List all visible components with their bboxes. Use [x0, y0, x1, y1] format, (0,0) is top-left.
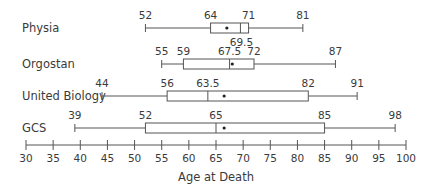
mean-dot — [223, 126, 226, 129]
box-rows: Physia5264718169.5Orgostan555967.57287Un… — [22, 9, 402, 135]
value-label: 52 — [139, 9, 152, 21]
value-label: 56 — [160, 77, 174, 89]
tick-label: 90 — [345, 152, 358, 164]
value-label: 39 — [68, 109, 81, 121]
value-label: 63.5 — [196, 77, 219, 89]
tick-label: 85 — [318, 152, 331, 164]
iqr-box — [211, 23, 249, 33]
box-row-physia: Physia5264718169.5 — [22, 9, 310, 48]
iqr-box — [145, 123, 324, 133]
tick-label: 60 — [182, 152, 195, 164]
boxplot-chart: Physia5264718169.5Orgostan555967.57287Un… — [0, 0, 439, 192]
tick-label: 45 — [101, 152, 114, 164]
series-label: United Biology — [22, 89, 106, 103]
box-row-orgostan: Orgostan555967.57287 — [22, 45, 342, 71]
tick-label: 30 — [19, 152, 32, 164]
value-label: 44 — [95, 77, 109, 89]
x-axis: 3035404550556065707580859095100 — [19, 140, 416, 164]
tick-label: 70 — [236, 152, 249, 164]
box-row-united-biology: United Biology445663.58291 — [22, 77, 364, 103]
box-row-gcs: GCS3952658598 — [22, 109, 402, 135]
tick-label: 55 — [155, 152, 168, 164]
iqr-box — [167, 91, 308, 101]
tick-label: 65 — [209, 152, 222, 164]
value-label: 98 — [388, 109, 401, 121]
mean-dot — [231, 62, 234, 65]
series-label: GCS — [22, 121, 46, 135]
value-label: 87 — [329, 45, 342, 57]
tick-label: 100 — [396, 152, 416, 164]
value-label: 91 — [350, 77, 363, 89]
tick-label: 35 — [46, 152, 59, 164]
tick-label: 75 — [264, 152, 277, 164]
value-label: 85 — [318, 109, 331, 121]
x-axis-label: Age at Death — [178, 170, 254, 184]
tick-label: 50 — [128, 152, 141, 164]
value-label: 64 — [204, 9, 218, 21]
value-label: 52 — [139, 109, 152, 121]
value-label: 55 — [155, 45, 168, 57]
tick-label: 95 — [372, 152, 385, 164]
series-label: Physia — [22, 21, 59, 35]
value-label: 81 — [296, 9, 309, 21]
series-label: Orgostan — [22, 57, 75, 71]
tick-label: 40 — [74, 152, 87, 164]
value-label: 67.5 — [218, 45, 241, 57]
mean-dot — [225, 26, 228, 29]
value-label: 71 — [242, 9, 255, 21]
value-label: 72 — [247, 45, 260, 57]
value-label: 82 — [302, 77, 315, 89]
iqr-box — [183, 59, 254, 69]
value-label: 65 — [209, 109, 222, 121]
tick-label: 80 — [291, 152, 304, 164]
mean-dot — [223, 94, 226, 97]
value-label: 59 — [177, 45, 190, 57]
